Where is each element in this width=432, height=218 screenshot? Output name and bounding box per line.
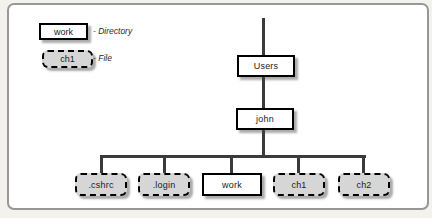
node-users: Users <box>237 55 295 77</box>
legend-directory-description: - Directory <box>93 26 132 36</box>
node-work: work <box>202 173 262 196</box>
node-ch1-label: ch1 <box>291 180 306 190</box>
node-john-label: john <box>256 114 274 124</box>
node-login-label: .login <box>153 180 176 190</box>
node-john: john <box>236 108 294 130</box>
node-cshrc: .cshrc <box>75 173 127 196</box>
node-users-label: Users <box>254 61 279 71</box>
drop-line-cshrc <box>100 155 103 173</box>
legend-file-description: - File <box>93 53 112 63</box>
filesystem-tree-diagram: work - Directory ch1 - File Users john .… <box>0 0 432 218</box>
john-children-stem-line <box>262 130 265 155</box>
drop-line-work <box>230 155 233 173</box>
legend-file-sample-label: ch1 <box>60 54 75 64</box>
node-login: .login <box>138 173 190 196</box>
legend-file-sample-box: ch1 <box>42 50 93 68</box>
drop-line-ch2 <box>362 155 365 173</box>
drop-line-login <box>163 155 166 173</box>
node-cshrc-label: .cshrc <box>88 180 113 190</box>
legend-directory-sample-box: work <box>39 23 88 40</box>
node-ch1: ch1 <box>273 173 325 196</box>
root-stem-line <box>262 18 265 55</box>
drop-line-ch1 <box>297 155 300 173</box>
legend-directory-sample-label: work <box>54 27 73 37</box>
node-work-label: work <box>222 180 242 190</box>
users-john-line <box>262 77 265 108</box>
node-ch2-label: ch2 <box>356 180 371 190</box>
children-connector-line <box>100 155 366 158</box>
node-ch2: ch2 <box>338 173 390 196</box>
